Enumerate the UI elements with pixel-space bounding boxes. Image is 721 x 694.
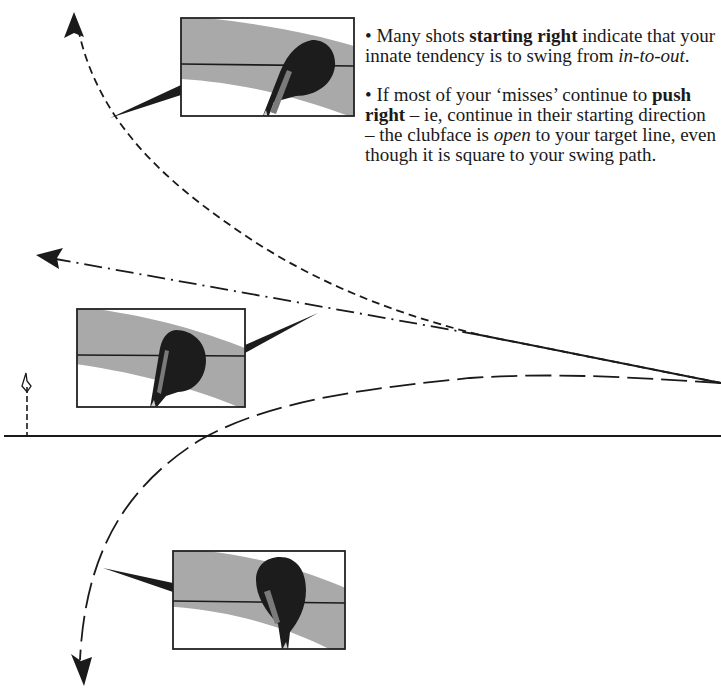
note-text: • If most of your ‘misses’ continue to <box>365 84 652 105</box>
flag-icon <box>22 373 31 436</box>
arrowhead-icon <box>64 12 84 38</box>
note-text: . <box>685 45 690 66</box>
note-push-right: • If most of your ‘misses’ continue to p… <box>365 85 720 165</box>
note-emphasis: starting right <box>469 25 577 46</box>
trajectory-slice-down-left <box>71 375 721 686</box>
arrowhead-icon <box>36 248 63 269</box>
clubface-inset-top <box>110 14 360 120</box>
clubface-inset-bottom <box>103 548 350 660</box>
instruction-notes: • Many shots starting right indicate tha… <box>365 26 720 184</box>
note-starting-right: • Many shots starting right indicate tha… <box>365 26 720 66</box>
arrowhead-icon <box>71 654 92 686</box>
note-term: open <box>494 124 531 145</box>
note-term: in-to-out <box>618 45 685 66</box>
clubface-inset-middle <box>60 305 318 412</box>
note-text: • Many shots <box>365 25 469 46</box>
